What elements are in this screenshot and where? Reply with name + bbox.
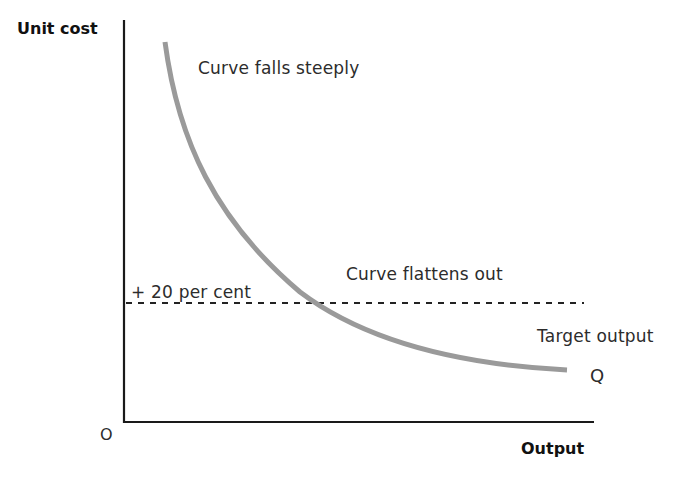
annotation-q: Q [590, 367, 604, 385]
unit-cost-curve [165, 42, 567, 370]
annotation-curve-flattens-out: Curve flattens out [346, 266, 503, 283]
x-axis-label: Output [521, 441, 584, 457]
origin-label: O [100, 427, 113, 443]
annotation-plus-20-per-cent: + 20 per cent [131, 284, 251, 301]
annotation-curve-falls-steeply: Curve falls steeply [198, 60, 359, 77]
y-axis-label: Unit cost [17, 21, 98, 37]
annotation-target-output: Target output [537, 328, 654, 345]
